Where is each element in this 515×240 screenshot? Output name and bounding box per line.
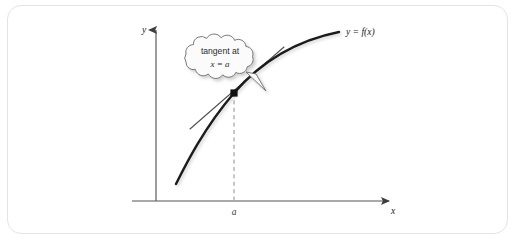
x-axis-label: x bbox=[390, 206, 396, 216]
x-tick-label-a: a bbox=[232, 207, 237, 217]
callout-bubble bbox=[185, 34, 253, 78]
y-axis-label: y bbox=[141, 25, 147, 35]
tangent-point-marker bbox=[230, 89, 237, 96]
callout-line-1: tangent at bbox=[201, 46, 240, 56]
axes-group: y x bbox=[132, 25, 396, 216]
curve-label: y = f(x) bbox=[345, 27, 375, 38]
figure-panel: y x a y = f(x) tangent at x = a bbox=[7, 5, 508, 234]
callout-tail bbox=[246, 72, 266, 91]
callout-line-2: x = a bbox=[209, 59, 230, 69]
tangent-line-diagram: y x a y = f(x) tangent at x = a bbox=[8, 6, 509, 235]
